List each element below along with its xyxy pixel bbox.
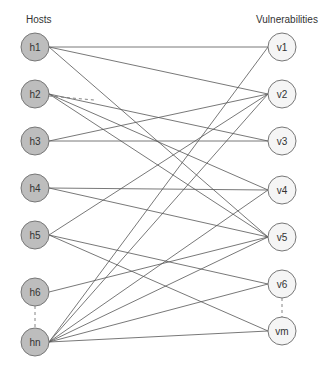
host-label: h5 xyxy=(29,230,41,241)
host-node-h5[interactable]: h5 xyxy=(21,221,49,249)
edge-h6-v5 xyxy=(49,237,268,292)
host-node-hn[interactable]: hn xyxy=(21,328,49,356)
host-label: h1 xyxy=(29,42,41,53)
edge-h5-v6 xyxy=(49,235,268,284)
host-node-h2[interactable]: h2 xyxy=(21,80,49,108)
vulnerability-label: vm xyxy=(275,326,288,337)
vulnerability-node-v1[interactable]: v1 xyxy=(268,33,296,61)
vulnerability-label: v4 xyxy=(277,185,288,196)
edge-h1-v2 xyxy=(49,47,268,94)
vulnerability-label: v5 xyxy=(277,232,288,243)
vulnerability-label: v1 xyxy=(277,42,288,53)
host-label: h2 xyxy=(29,89,41,100)
host-node-h6[interactable]: h6 xyxy=(21,278,49,306)
edge-h2-v4 xyxy=(49,94,268,190)
host-node-h3[interactable]: h3 xyxy=(21,127,49,155)
vulnerability-node-vm[interactable]: vm xyxy=(268,317,296,345)
host-node-h1[interactable]: h1 xyxy=(21,33,49,61)
host-label: h4 xyxy=(29,183,41,194)
host-label: h3 xyxy=(29,136,41,147)
edge-hn-v2 xyxy=(49,94,268,342)
vulnerability-node-v6[interactable]: v6 xyxy=(268,270,296,298)
edge-hn-v6 xyxy=(49,284,268,342)
edge-h5-vm xyxy=(49,235,268,331)
vulnerability-label: v6 xyxy=(277,279,288,290)
edge-hn-v5 xyxy=(49,237,268,342)
host-label: hn xyxy=(29,337,40,348)
host-node-h4[interactable]: h4 xyxy=(21,174,49,202)
vulnerability-label: v3 xyxy=(277,136,288,147)
vulnerability-node-v5[interactable]: v5 xyxy=(268,223,296,251)
host-label: h6 xyxy=(29,287,41,298)
bipartite-graph: h1h2h3h4h5h6hnv1v2v3v4v5v6vm xyxy=(0,0,332,375)
vulnerability-node-v2[interactable]: v2 xyxy=(268,80,296,108)
edge-hn-vm xyxy=(49,331,268,342)
vulnerability-node-v4[interactable]: v4 xyxy=(268,176,296,204)
edge-h4-v4 xyxy=(49,188,268,190)
edges xyxy=(35,47,282,342)
edge-hn-v1 xyxy=(49,47,268,342)
vulnerability-node-v3[interactable]: v3 xyxy=(268,127,296,155)
vulnerability-label: v2 xyxy=(277,89,288,100)
